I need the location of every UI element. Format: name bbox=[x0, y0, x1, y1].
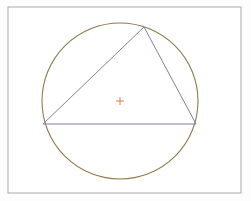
diagram-svg bbox=[0, 0, 251, 201]
frame-border bbox=[8, 7, 241, 193]
diagram-canvas bbox=[0, 0, 251, 201]
